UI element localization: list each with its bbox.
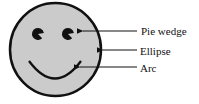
smiley-diagram: Pie wedge Ellipse Arc bbox=[0, 0, 199, 104]
arc-label: Arc bbox=[140, 62, 157, 74]
pie-wedge-label: Pie wedge bbox=[141, 25, 187, 37]
ellipse-label: Ellipse bbox=[140, 45, 171, 57]
face-ellipse bbox=[10, 3, 101, 96]
